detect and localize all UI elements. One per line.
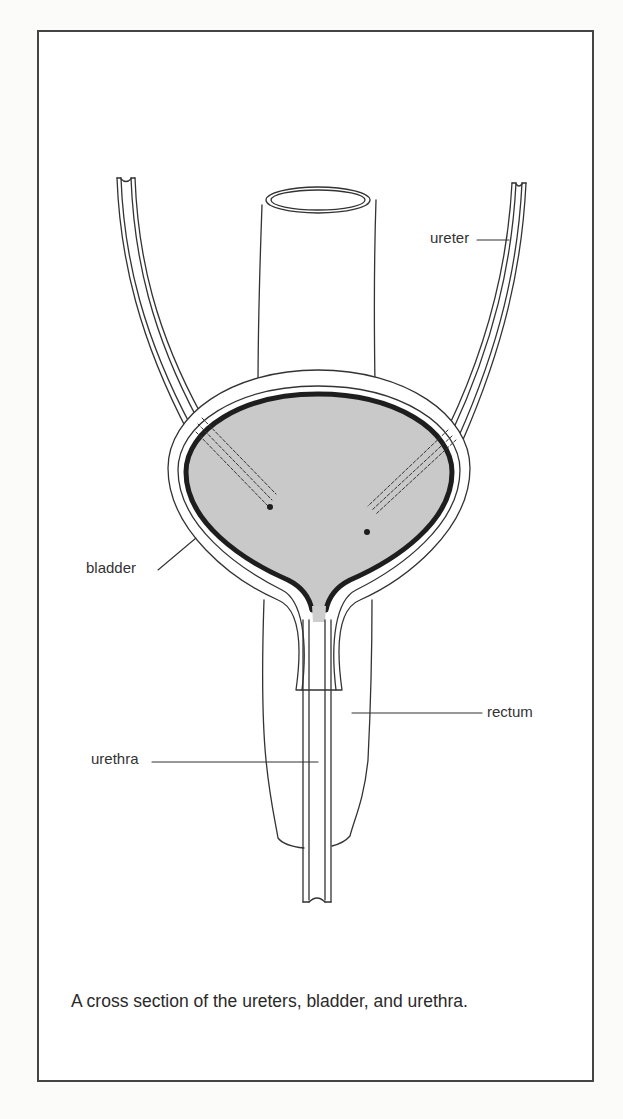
label-bladder: bladder	[86, 559, 136, 577]
ureter-right	[448, 183, 526, 442]
ureter-left	[117, 178, 202, 432]
label-ureter: ureter	[430, 229, 469, 247]
bladder-leader	[158, 538, 196, 570]
figure-caption: A cross section of the ureters, bladder,…	[71, 991, 511, 1012]
bladder	[168, 370, 470, 690]
page: ureter bladder rectum urethra A cross se…	[0, 0, 623, 1119]
rectum-upper	[258, 187, 376, 390]
label-rectum: rectum	[487, 703, 533, 721]
label-urethra: urethra	[91, 750, 139, 768]
